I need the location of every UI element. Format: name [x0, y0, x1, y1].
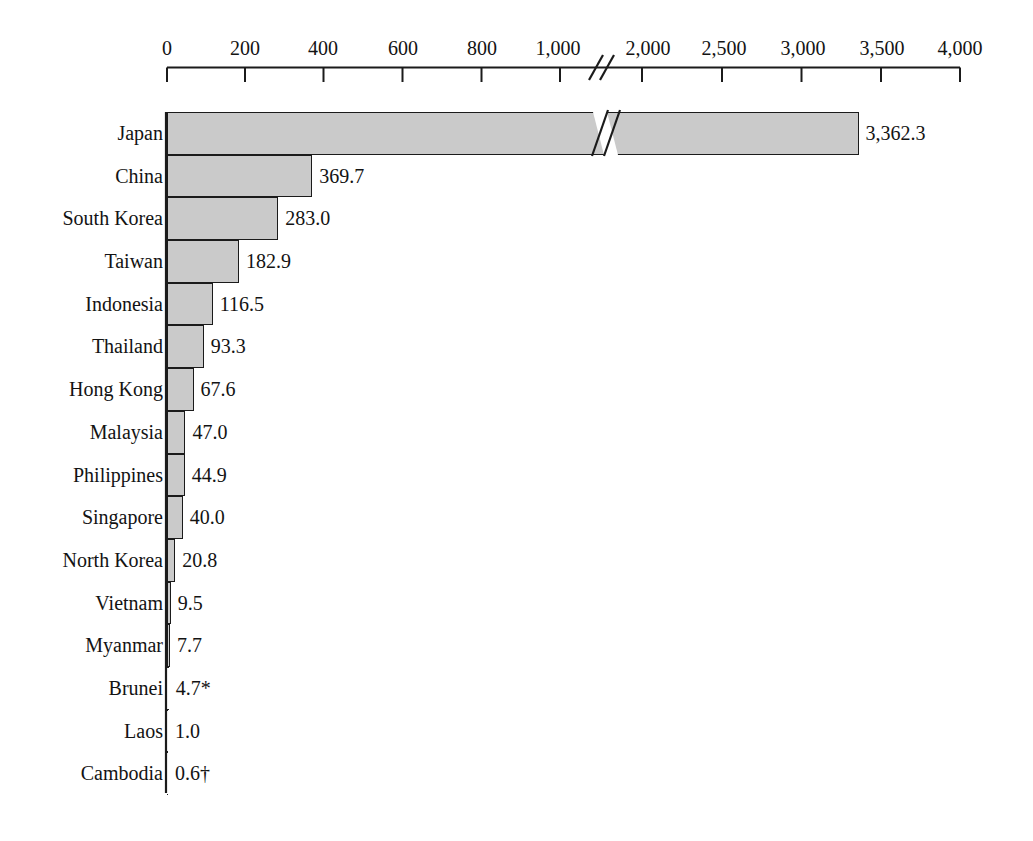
bar-row: Malaysia47.0 [0, 411, 1033, 454]
bar [167, 454, 185, 497]
category-label: Singapore [82, 496, 163, 539]
bar-row: South Korea283.0 [0, 197, 1033, 240]
bar-value-label: 20.8 [182, 539, 217, 582]
category-label: Laos [124, 710, 163, 753]
bar [167, 667, 169, 710]
x-tick-label: 2,500 [702, 38, 747, 58]
bar-row: Vietnam9.5 [0, 582, 1033, 625]
bar-row: China369.7 [0, 155, 1033, 198]
bar-row: North Korea20.8 [0, 539, 1033, 582]
bar [167, 582, 171, 625]
bar-row: Hong Kong67.6 [0, 368, 1033, 411]
bar-row: Brunei4.7* [0, 667, 1033, 710]
category-label: North Korea [62, 539, 163, 582]
bar-row: Philippines44.9 [0, 454, 1033, 497]
bar-value-label: 9.5 [178, 582, 203, 625]
bar-value-label: 47.0 [192, 411, 227, 454]
axis-break-icon [589, 55, 614, 80]
x-tick-label: 600 [388, 38, 418, 58]
bar-value-label: 0.6† [175, 752, 210, 795]
bar [167, 240, 239, 283]
bar [167, 325, 204, 368]
bar [167, 283, 213, 326]
category-label: China [115, 155, 163, 198]
bar [167, 411, 185, 454]
bar [167, 624, 170, 667]
bar-row: Thailand93.3 [0, 325, 1033, 368]
x-tick-label: 3,500 [860, 38, 905, 58]
bar-value-label: 7.7 [177, 624, 202, 667]
bar-value-label: 67.6 [201, 368, 236, 411]
category-label: Taiwan [104, 240, 163, 283]
category-label: Cambodia [81, 752, 163, 795]
category-label: Thailand [92, 325, 163, 368]
x-tick-label: 0 [162, 38, 172, 58]
category-label: Indonesia [85, 283, 163, 326]
x-tick-label: 3,000 [781, 38, 826, 58]
bar-chart: 0 200 400 600 800 1,000 2,000 2,500 3,00… [0, 0, 1033, 841]
x-tick-label: 2,000 [626, 38, 671, 58]
bar [167, 496, 183, 539]
bar-row: Myanmar7.7 [0, 624, 1033, 667]
bar-value-label: 4.7* [176, 667, 211, 710]
bar-row: Indonesia116.5 [0, 283, 1033, 326]
bar-value-label: 40.0 [190, 496, 225, 539]
x-tick-label: 4,000 [938, 38, 983, 58]
bar [167, 197, 278, 240]
bar-row: Taiwan182.9 [0, 240, 1033, 283]
x-tick-label: 200 [230, 38, 260, 58]
bar-value-label: 116.5 [220, 283, 264, 326]
category-label: Brunei [109, 667, 163, 710]
bar-row: Singapore40.0 [0, 496, 1033, 539]
category-label: Philippines [73, 454, 163, 497]
x-tick-label: 800 [467, 38, 497, 58]
category-label: Myanmar [85, 624, 163, 667]
bar [167, 112, 859, 155]
bar-value-label: 369.7 [319, 155, 364, 198]
bar-row: Japan3,362.3 [0, 112, 1033, 155]
category-label: Japan [117, 112, 163, 155]
bar [167, 155, 312, 198]
bar-row: Laos1.0 [0, 710, 1033, 753]
category-label: Vietnam [95, 582, 163, 625]
bar-value-label: 3,362.3 [866, 112, 926, 155]
bar [167, 539, 175, 582]
bar-value-label: 182.9 [246, 240, 291, 283]
bar-value-label: 1.0 [175, 710, 200, 753]
bar-row: Cambodia0.6† [0, 752, 1033, 795]
x-tick-label: 400 [308, 38, 338, 58]
category-label: Hong Kong [69, 368, 163, 411]
bar-value-label: 44.9 [192, 454, 227, 497]
bar [167, 368, 194, 411]
bar-value-label: 93.3 [211, 325, 246, 368]
x-tick-label: 1,000 [536, 38, 581, 58]
category-label: South Korea [62, 197, 163, 240]
bar-value-label: 283.0 [285, 197, 330, 240]
bar-rows: Japan3,362.3China369.7South Korea283.0Ta… [0, 112, 1033, 795]
category-label: Malaysia [90, 411, 163, 454]
x-axis-ticks [167, 68, 960, 83]
